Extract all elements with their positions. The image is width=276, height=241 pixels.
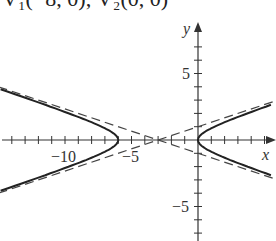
y-axis-arrow-icon [194, 22, 202, 32]
x-tick-label-neg5: −5 [122, 148, 139, 165]
x-axis-label: x [261, 146, 269, 163]
y-tick-label-5: 5 [182, 65, 190, 82]
x-tick-label-neg10: −10 [51, 148, 76, 165]
y-tick-label-neg5: −5 [172, 198, 189, 215]
y-axis-label: y [181, 20, 191, 38]
x-axis-arrow-icon [266, 136, 276, 144]
hyperbola-chart: y x −10 −5 5 −5 [0, 0, 276, 241]
